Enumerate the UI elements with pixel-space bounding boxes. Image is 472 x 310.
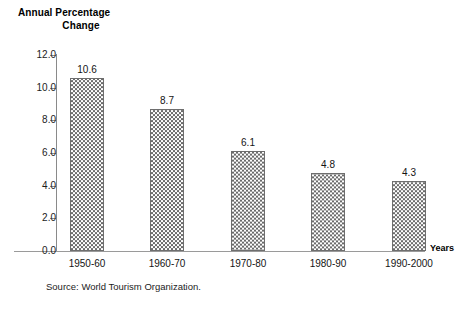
plot-area: 10.68.76.14.84.3 [56, 55, 416, 251]
y-axis-tick-label: 8.0 [22, 115, 56, 125]
bar[interactable] [150, 109, 184, 251]
bar-value-label: 4.8 [301, 159, 355, 170]
bar-group: 4.3 [392, 55, 426, 251]
x-axis-tick-label: 1960-70 [127, 258, 207, 270]
bar-group: 6.1 [231, 55, 265, 251]
x-axis-title: Years [430, 243, 454, 254]
x-axis-line [14, 251, 425, 252]
bar[interactable] [231, 151, 265, 251]
chart-title: Annual Percentage Change [18, 6, 158, 32]
bar-value-label: 4.3 [382, 167, 436, 178]
x-axis-tick-label: 1990-2000 [369, 258, 449, 270]
y-axis-tick-label: 2.0 [22, 213, 56, 223]
bar-group: 10.6 [70, 55, 104, 251]
bar-group: 4.8 [311, 55, 345, 251]
source-note: Source: World Tourism Organization. [46, 281, 201, 293]
x-axis-tick-label: 1970-80 [208, 258, 288, 270]
bar[interactable] [311, 173, 345, 251]
bar-value-label: 8.7 [140, 95, 194, 106]
x-axis-tick-label: 1950-60 [47, 258, 127, 270]
bar-group: 8.7 [150, 55, 184, 251]
bar-value-label: 10.6 [60, 64, 114, 75]
chart-figure: Annual Percentage Change 12.010.08.06.04… [0, 0, 472, 310]
chart-title-line-1: Annual Percentage [18, 6, 158, 19]
y-axis-tick-label: 6.0 [22, 148, 56, 158]
bar[interactable] [392, 181, 426, 251]
bar[interactable] [70, 78, 104, 251]
y-axis-tick-label: 0.0 [22, 246, 56, 256]
x-axis-tick-label: 1980-90 [288, 258, 368, 270]
y-axis-tick-label: 12.0 [22, 50, 56, 60]
y-axis-tick-label: 10.0 [22, 83, 56, 93]
y-axis-tick-label: 4.0 [22, 181, 56, 191]
chart-title-line-2: Change [18, 19, 158, 32]
bar-value-label: 6.1 [221, 137, 275, 148]
